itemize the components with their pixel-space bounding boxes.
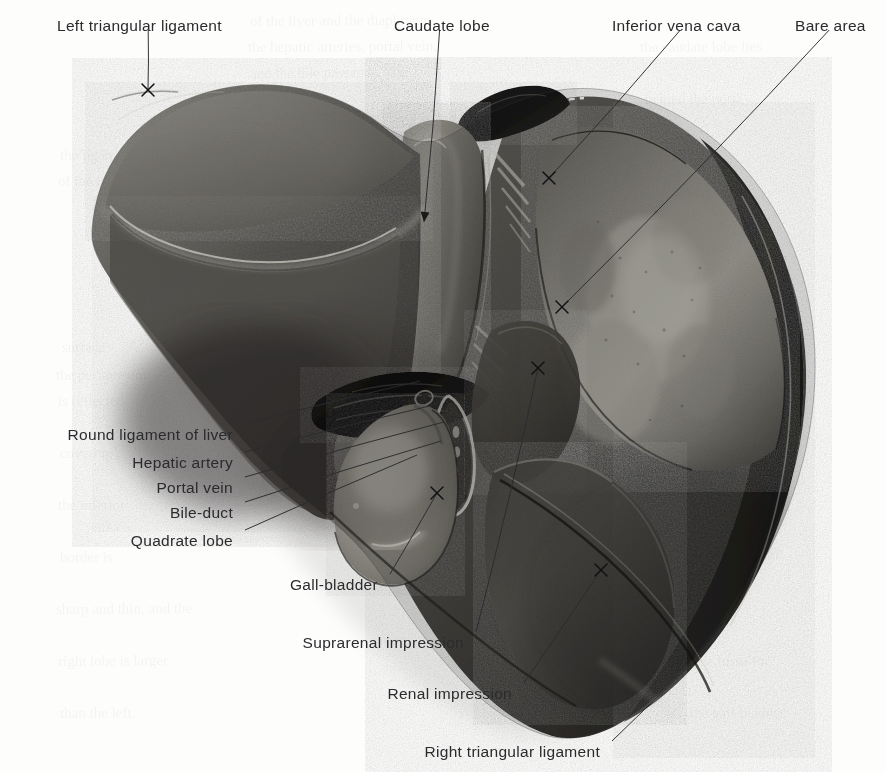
show-through-line: covering <box>60 445 113 461</box>
label-quadrate-lobe: Quadrate lobe <box>131 532 233 549</box>
label-gall-bladder: Gall-bladder <box>290 576 378 593</box>
label-round-ligament-of-liver: Round ligament of liver <box>68 426 233 443</box>
label-renal-impression: Renal impression <box>387 685 512 702</box>
show-through-line: behind the porta <box>645 90 743 107</box>
label-portal-vein: Portal vein <box>156 479 233 496</box>
label-bare-area: Bare area <box>795 17 866 34</box>
label-caudate-lobe: Caudate lobe <box>394 17 490 34</box>
show-through-line: the inferior <box>58 497 125 513</box>
show-through-line: the fossa for <box>695 652 769 669</box>
show-through-line: is reflected <box>58 393 125 409</box>
label-left-triangular-ligament: Left triangular ligament <box>57 17 222 34</box>
label-suprarenal-impression: Suprarenal impression <box>303 634 464 651</box>
show-through-line: than the left. <box>60 704 136 721</box>
show-through-line: the caudate lobe lies <box>640 38 762 55</box>
liver-anatomy-plate: of the liver and the diaphragmthe hepati… <box>0 0 886 772</box>
show-through-line: border is <box>60 549 113 565</box>
show-through-line: the gall-bladder <box>690 704 785 721</box>
show-through-line: sharp and thin, and the <box>56 600 193 617</box>
show-through-line: right lobe is larger <box>58 652 168 669</box>
show-through-line: and the bile passages. The <box>250 64 407 81</box>
label-inferior-vena-cava: Inferior vena cava <box>612 17 741 34</box>
label-right-triangular-ligament: Right triangular ligament <box>424 743 600 760</box>
label-bile-duct: Bile-duct <box>170 504 233 521</box>
show-through-line: the hepatic arteries, portal vein, <box>248 38 437 55</box>
label-hepatic-artery: Hepatic artery <box>132 454 233 471</box>
show-through-line: surface <box>62 339 106 355</box>
